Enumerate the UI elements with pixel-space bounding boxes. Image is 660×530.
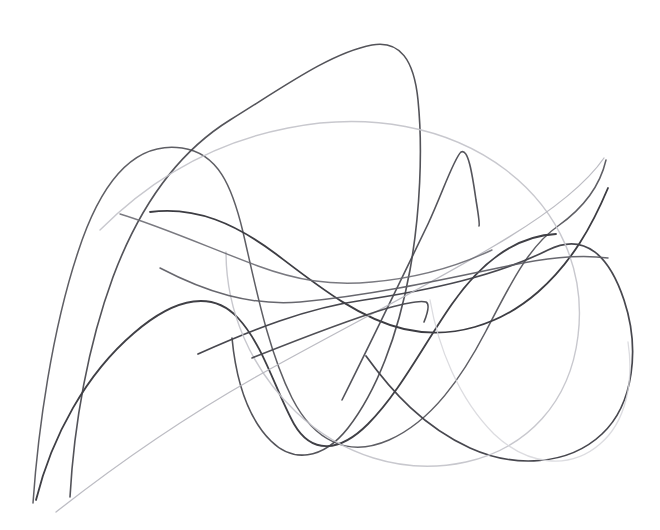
canvas-background [0,0,660,530]
abstract-line-drawing [0,0,660,530]
artwork-canvas [0,0,660,530]
